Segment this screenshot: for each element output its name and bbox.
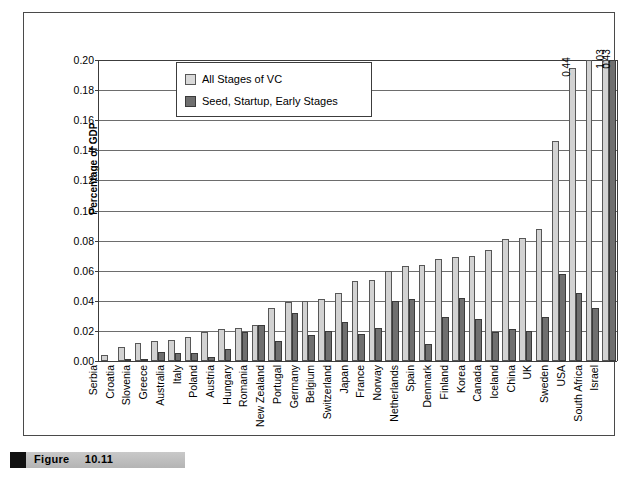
bar-all-stages bbox=[201, 332, 208, 361]
bar-group bbox=[99, 60, 116, 361]
bar-all-stages bbox=[519, 238, 526, 361]
y-axis-tick-label: 0.08 bbox=[74, 235, 94, 247]
legend-label-all-stages: All Stages of VC bbox=[202, 73, 282, 85]
bar-seed-startup-early bbox=[242, 332, 249, 361]
x-axis-category-label: Canada bbox=[471, 365, 488, 402]
bar-seed-startup-early bbox=[292, 313, 299, 361]
x-axis-category-label: China bbox=[505, 365, 522, 392]
bar-seed-startup-early bbox=[308, 335, 315, 361]
bar-all-stages bbox=[168, 340, 175, 361]
y-axis-tick-label: 0.02 bbox=[74, 325, 94, 337]
bar-group: 0.44 bbox=[567, 60, 584, 361]
bar-seed-startup-early bbox=[509, 329, 516, 361]
x-axis-category-label: Australia bbox=[154, 365, 171, 406]
bar-seed-startup-early bbox=[158, 352, 165, 361]
x-axis-category-label: Belgium bbox=[304, 365, 321, 403]
x-axis-category-labels: SerbiaCroatiaSloveniaGreeceAustraliaItal… bbox=[87, 365, 605, 449]
bar-all-stages bbox=[302, 301, 309, 361]
x-axis-category-label: Poland bbox=[187, 365, 204, 398]
bar-seed-startup-early bbox=[392, 301, 399, 361]
bar-seed-startup-early bbox=[459, 298, 466, 361]
bar-group bbox=[132, 60, 149, 361]
y-axis-tick-label: 0.16 bbox=[74, 114, 94, 126]
bar-value-label: 0.44 bbox=[561, 57, 572, 76]
x-axis-category-label: Denmark bbox=[421, 365, 438, 408]
bar-seed-startup-early bbox=[208, 357, 215, 362]
bar-seed-startup-early: 0.43 bbox=[609, 60, 616, 361]
bar-all-stages bbox=[485, 250, 492, 361]
bar-group bbox=[433, 60, 450, 361]
bar-group bbox=[116, 60, 133, 361]
bar-all-stages bbox=[419, 265, 426, 361]
y-axis-tick-label: 0.04 bbox=[74, 295, 94, 307]
y-axis-tick-label: 0.18 bbox=[74, 84, 94, 96]
y-axis-tick-label: 0.06 bbox=[74, 265, 94, 277]
bar-all-stages bbox=[502, 239, 509, 361]
x-axis-category-label: Portugal bbox=[271, 365, 288, 404]
gridline bbox=[99, 361, 617, 362]
bar-seed-startup-early bbox=[225, 349, 232, 361]
bar-all-stages bbox=[268, 308, 275, 361]
figure-frame: Percentage of GDP 0.000.020.040.060.080.… bbox=[23, 12, 615, 436]
caption-marker-icon bbox=[10, 452, 26, 468]
bar-group bbox=[149, 60, 166, 361]
x-axis-category-label: Korea bbox=[455, 365, 472, 393]
caption-text: Figure 10.11 bbox=[34, 453, 113, 465]
bar-all-stages bbox=[435, 259, 442, 361]
y-axis-tick-label: 0.20 bbox=[74, 54, 94, 66]
x-axis-category-label: Sweden bbox=[538, 365, 555, 403]
bar-seed-startup-early bbox=[191, 353, 198, 361]
figure-caption: Figure 10.11 bbox=[10, 452, 185, 468]
legend-swatch-light-icon bbox=[185, 74, 196, 85]
bar-group bbox=[500, 60, 517, 361]
bar-seed-startup-early bbox=[475, 319, 482, 361]
bar-all-stages: 0.44 bbox=[569, 68, 576, 361]
bar-seed-startup-early bbox=[492, 332, 499, 361]
y-axis-tick-label: 0.12 bbox=[74, 174, 94, 186]
y-axis-tick-label: 0.10 bbox=[74, 205, 94, 217]
bar-all-stages: 1.03 bbox=[602, 60, 609, 361]
x-axis-category-label: Serbia bbox=[87, 365, 104, 395]
bar-seed-startup-early bbox=[592, 308, 599, 361]
bar-all-stages bbox=[218, 329, 225, 361]
bar-seed-startup-early bbox=[258, 325, 265, 361]
x-axis-category-label: Hungary bbox=[221, 365, 238, 405]
x-axis-category-label: Netherlands bbox=[388, 365, 405, 422]
bar-seed-startup-early bbox=[559, 274, 566, 361]
x-axis-category-label: Italy bbox=[171, 365, 188, 384]
x-axis-category-label: Spain bbox=[404, 365, 421, 392]
chart-legend: All Stages of VC Seed, Startup, Early St… bbox=[176, 62, 372, 117]
bar-all-stages bbox=[185, 337, 192, 361]
x-axis-category-label: Austria bbox=[204, 365, 221, 398]
bar-group bbox=[584, 60, 601, 361]
y-axis-tick-label: 0.14 bbox=[74, 144, 94, 156]
bar-all-stages bbox=[536, 229, 543, 361]
bar-seed-startup-early bbox=[141, 359, 148, 361]
bar-all-stages bbox=[101, 355, 108, 361]
legend-swatch-dark-icon bbox=[185, 96, 196, 107]
bar-all-stages bbox=[285, 302, 292, 361]
bar-seed-startup-early bbox=[375, 328, 382, 361]
x-axis-category-label: Iceland bbox=[488, 365, 505, 399]
figure-page: Percentage of GDP 0.000.020.040.060.080.… bbox=[0, 0, 637, 484]
x-axis-category-label: South Africa bbox=[572, 365, 589, 422]
x-axis-category-label: Germany bbox=[288, 365, 305, 408]
bar-group bbox=[517, 60, 534, 361]
y-axis-tick-mark bbox=[95, 361, 99, 362]
x-axis-category-label: Switzerland bbox=[321, 365, 338, 419]
x-axis-category-label: Croatia bbox=[104, 365, 121, 399]
x-axis-category-label: France bbox=[354, 365, 371, 398]
bar-group bbox=[483, 60, 500, 361]
bar-seed-startup-early bbox=[542, 317, 549, 361]
bar-all-stages bbox=[586, 60, 593, 361]
bar-all-stages bbox=[369, 280, 376, 361]
bar-group bbox=[550, 60, 567, 361]
bar-seed-startup-early bbox=[175, 353, 182, 361]
bar-seed-startup-early bbox=[425, 344, 432, 361]
bar-group bbox=[416, 60, 433, 361]
bar-group bbox=[450, 60, 467, 361]
caption-number: 10.11 bbox=[85, 453, 113, 465]
bar-all-stages bbox=[135, 343, 142, 361]
legend-label-seed-startup-early: Seed, Startup, Early Stages bbox=[202, 95, 338, 107]
bar-value-label: 0.43 bbox=[601, 49, 612, 68]
